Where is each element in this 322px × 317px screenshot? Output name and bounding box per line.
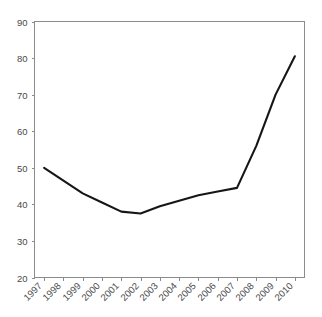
chart-canvas: 2030405060708090 19971998199920002001200… (0, 0, 322, 317)
y-tick-label: 80 (17, 53, 28, 64)
y-tick-label: 70 (17, 90, 28, 101)
y-tick-label: 30 (17, 236, 28, 247)
plot-area (34, 21, 305, 277)
y-tick-label: 90 (17, 17, 28, 28)
y-tick-label: 40 (17, 199, 28, 210)
y-tick-label: 60 (17, 126, 28, 137)
line-chart: 2030405060708090 19971998199920002001200… (0, 0, 322, 317)
y-tick-label: 20 (17, 273, 28, 284)
y-tick-label: 50 (17, 163, 28, 174)
